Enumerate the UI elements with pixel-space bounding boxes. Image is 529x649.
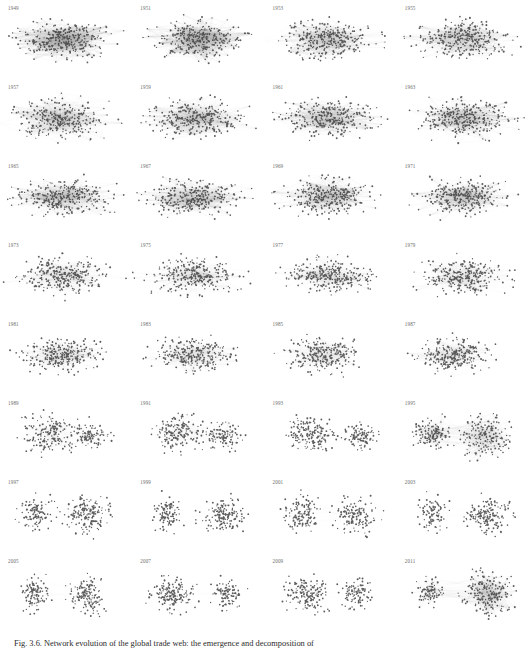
network-graph-1955: [397, 0, 529, 79]
panel-year-label: 1991: [140, 400, 151, 406]
panel-year-label: 1979: [405, 242, 416, 248]
edge-bundle: [8, 175, 124, 217]
edge-bundle: [412, 414, 511, 462]
network-panel-1999: 1999: [132, 474, 264, 553]
panel-year-label: 1999: [140, 479, 151, 485]
network-panel-1963: 1963: [397, 79, 529, 158]
graph-edges: [4, 253, 126, 300]
edge-bundle: [146, 576, 248, 615]
panel-year-label: 1975: [140, 242, 151, 248]
network-graph-2001: [265, 474, 397, 553]
network-panel-1949: 1949: [0, 0, 132, 79]
network-panel-2005: 2005: [0, 553, 132, 632]
edge-bundle: [409, 176, 518, 220]
graph-edges: [133, 254, 249, 297]
edge-bundle: [413, 253, 515, 296]
network-graph-1961: [265, 79, 397, 158]
network-panel-2001: 2001: [265, 474, 397, 553]
graph-edges: [409, 176, 518, 220]
network-panel-1951: 1951: [132, 0, 264, 79]
network-graph-2009: [265, 553, 397, 632]
figure-caption: Fig. 3.6. Network evolution of the globa…: [14, 639, 519, 649]
network-panel-2007: 2007: [132, 553, 264, 632]
network-graph-1969: [265, 158, 397, 237]
network-graph-1979: [397, 237, 529, 316]
node-marks: [8, 18, 124, 63]
network-graph-1965: [0, 158, 132, 237]
graph-edges: [143, 15, 252, 63]
panel-year-label: 1983: [140, 321, 151, 327]
panel-year-label: 1985: [273, 321, 284, 327]
network-panel-1969: 1969: [265, 158, 397, 237]
edge-bundle: [280, 490, 383, 537]
network-panel-1965: 1965: [0, 158, 132, 237]
network-panel-1989: 1989: [0, 395, 132, 474]
panel-year-label: 2005: [8, 558, 19, 564]
graph-edges: [280, 490, 383, 537]
network-graph-1995: [397, 395, 529, 474]
network-graph-1983: [132, 316, 264, 395]
panel-year-label: 2001: [273, 479, 284, 485]
panel-grid: 1949195119531955195719591961196319651967…: [0, 0, 529, 632]
panel-year-label: 1995: [405, 400, 416, 406]
graph-edges: [412, 568, 516, 619]
network-panel-1957: 1957: [0, 79, 132, 158]
network-graph-1981: [0, 316, 132, 395]
network-panel-1981: 1981: [0, 316, 132, 395]
network-panel-1959: 1959: [132, 79, 264, 158]
graph-edges: [418, 493, 514, 534]
network-graph-1987: [397, 316, 529, 395]
panel-year-label: 2009: [273, 558, 284, 564]
panel-year-label: 1963: [405, 84, 416, 90]
edge-bundle: [143, 15, 252, 63]
network-panel-1955: 1955: [397, 0, 529, 79]
panel-year-label: 1949: [8, 5, 19, 11]
network-panel-1995: 1995: [397, 395, 529, 474]
panel-year-label: 2007: [140, 558, 151, 564]
network-graph-1971: [397, 158, 529, 237]
network-panel-1971: 1971: [397, 158, 529, 237]
edge-bundle: [133, 254, 249, 297]
network-panel-1985: 1985: [265, 316, 397, 395]
network-panel-2009: 2009: [265, 553, 397, 632]
network-graph-1977: [265, 237, 397, 316]
network-graph-1967: [132, 158, 264, 237]
graph-nodes: [9, 337, 107, 376]
edge-bundle: [4, 253, 126, 300]
graph-nodes: [408, 96, 524, 144]
panel-year-label: 1965: [8, 163, 19, 169]
panel-year-label: 1977: [273, 242, 284, 248]
network-graph-1999: [132, 474, 264, 553]
network-graph-1985: [265, 316, 397, 395]
network-graph-1975: [132, 237, 264, 316]
network-panel-1977: 1977: [265, 237, 397, 316]
panel-year-label: 2011: [405, 558, 416, 564]
panel-year-label: 1959: [140, 84, 151, 90]
panel-year-label: 1953: [273, 5, 284, 11]
network-panel-1993: 1993: [265, 395, 397, 474]
node-marks: [20, 573, 106, 617]
graph-edges: [271, 175, 380, 216]
network-graph-1959: [132, 79, 264, 158]
panel-year-label: 1971: [405, 163, 416, 169]
network-graph-1973: [0, 237, 132, 316]
panel-year-label: 1961: [273, 84, 284, 90]
graph-edges: [413, 253, 515, 296]
panel-year-label: 1993: [273, 400, 284, 406]
edge-bundle: [141, 95, 256, 139]
network-graph-2007: [132, 553, 264, 632]
graph-nodes: [417, 491, 516, 537]
network-graph-1957: [0, 79, 132, 158]
node-marks: [9, 337, 107, 376]
network-graph-1993: [265, 395, 397, 474]
network-panel-1961: 1961: [265, 79, 397, 158]
node-marks: [408, 96, 524, 144]
network-panel-1979: 1979: [397, 237, 529, 316]
panel-year-label: 1967: [140, 163, 151, 169]
network-panel-1973: 1973: [0, 237, 132, 316]
network-panel-2003: 2003: [397, 474, 529, 553]
network-graph-1949: [0, 0, 132, 79]
network-graph-1953: [265, 0, 397, 79]
network-panel-1987: 1987: [397, 316, 529, 395]
network-panel-1997: 1997: [0, 474, 132, 553]
